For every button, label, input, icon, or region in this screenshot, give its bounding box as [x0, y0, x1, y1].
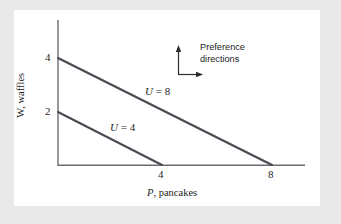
indifference-curve-u4 [58, 112, 162, 165]
y-tick-label-2: 2 [45, 106, 51, 117]
y-tick-label-4: 4 [45, 52, 51, 63]
curve-label-u4-symbol: U [110, 121, 118, 133]
y-axis-title-rest: , waffles [15, 73, 26, 109]
curve-label-u4-value: = 4 [118, 121, 135, 133]
preference-arrows [176, 45, 203, 77]
figure-root: 4 2 4 8 W, waffles P, pancakes U = 8 U =… [0, 0, 341, 224]
curve-label-u8-symbol: U [145, 85, 153, 97]
x-tick-label-8: 8 [268, 169, 274, 180]
up-arrow-icon [176, 45, 181, 52]
preference-directions-line1: Preference [200, 42, 245, 54]
y-axis-title: W, waffles [13, 62, 27, 132]
x-axis-title-rest: , pancakes [153, 187, 197, 198]
preference-directions-label: Preference directions [200, 42, 245, 65]
curve-label-u8: U = 8 [145, 86, 170, 97]
right-arrow-icon [196, 72, 203, 77]
curve-label-u4: U = 4 [110, 122, 135, 133]
x-tick-label-4: 4 [158, 169, 164, 180]
preference-directions-line2: directions [200, 54, 245, 66]
curve-label-u8-value: = 8 [153, 85, 170, 97]
y-axis-title-symbol: W [15, 109, 26, 118]
x-axis-title: P, pancakes [147, 188, 197, 199]
indifference-curve-u8 [58, 58, 272, 165]
